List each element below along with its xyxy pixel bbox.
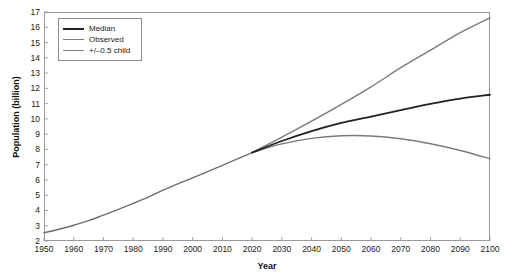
y-axis-title: Population (billion) — [11, 47, 21, 187]
legend-swatch-band — [63, 50, 84, 51]
y-tick-label: 8 — [20, 145, 40, 154]
legend-item: Observed — [63, 34, 136, 45]
y-tick-label: 5 — [20, 191, 40, 200]
legend: Median Observed +/–0.5 child — [58, 18, 142, 61]
legend-label-observed: Observed — [89, 36, 124, 44]
chart-container: 234567891011121314151617 Population (bil… — [0, 0, 512, 277]
y-tick-label: 14 — [20, 54, 40, 63]
y-tick-label: 4 — [20, 206, 40, 215]
legend-swatch-median — [63, 28, 84, 30]
legend-item: Median — [63, 23, 136, 34]
x-tick-label: 2100 — [470, 245, 510, 254]
y-tick-label: 7 — [20, 160, 40, 169]
y-tick-label: 17 — [20, 8, 40, 17]
y-tick-label: 11 — [20, 99, 40, 108]
x-axis-title: Year — [44, 261, 490, 271]
y-tick-label: 6 — [20, 176, 40, 185]
series-line — [252, 18, 490, 153]
legend-label-band: +/–0.5 child — [89, 47, 130, 55]
legend-swatch-observed — [63, 39, 84, 40]
legend-item: +/–0.5 child — [63, 45, 136, 56]
y-tick-label: 12 — [20, 84, 40, 93]
series-line — [252, 95, 490, 153]
y-tick-label: 10 — [20, 115, 40, 124]
x-axis-tick-labels: 1950196019701980199020002010202020302040… — [0, 245, 512, 259]
legend-label-median: Median — [89, 25, 115, 33]
y-tick-label: 16 — [20, 23, 40, 32]
y-tick-label: 13 — [20, 69, 40, 78]
y-tick-label: 3 — [20, 221, 40, 230]
y-tick-label: 15 — [20, 38, 40, 47]
series-line — [44, 153, 252, 233]
y-tick-label: 9 — [20, 130, 40, 139]
